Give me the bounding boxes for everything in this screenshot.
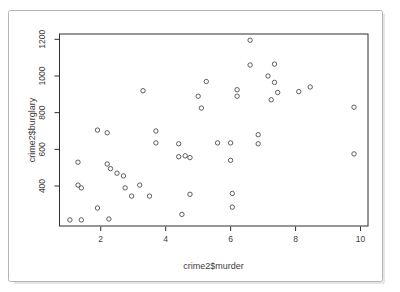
x-tick-label: 6 (228, 234, 233, 244)
y-tick-label: 1000 (37, 66, 47, 85)
y-tick-label: 1200 (37, 30, 47, 49)
y-axis-label: crime2$burglary (27, 97, 37, 162)
y-tick-label: 400 (37, 179, 47, 193)
y-tick-label: 800 (37, 105, 47, 119)
x-tick-label: 8 (293, 234, 298, 244)
x-axis-label: crime2$murder (183, 261, 244, 271)
y-tick-label: 600 (37, 142, 47, 156)
x-tick-label: 4 (163, 234, 168, 244)
x-tick-label: 2 (98, 234, 103, 244)
x-tick-label: 10 (356, 234, 366, 244)
window-frame (9, 11, 383, 282)
scatter-plot: 24681040060080010001200crime2$murder cri… (0, 0, 400, 292)
